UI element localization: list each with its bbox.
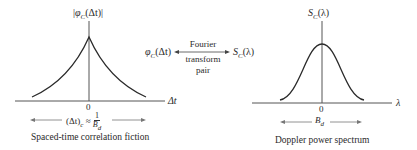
delta-t-c: (Δt) [66,116,80,126]
abs-close: | [101,7,103,18]
right-origin-tick: 0 [319,105,324,114]
right-width-annotation: Bd [315,116,324,128]
left-caption: Spaced-time correlation fiction [31,133,149,143]
right-caption: Doppler power spectrum [275,136,369,146]
left-y-axis-label: |φC(Δt)| [73,8,103,21]
approx-sign: ≈ [86,116,91,126]
fraction: 1 Bd [93,112,101,132]
argument: (λ) [318,7,330,18]
left-width-annotation: (Δt)c ≈ 1 Bd [66,112,101,132]
denominator-sub: d [98,124,102,132]
left-origin-tick: 0 [86,103,91,112]
pair-label: pair [182,66,224,75]
fourier-label: Fourier [182,40,224,49]
subscript: d [321,120,325,128]
arg-delta-t: (Δt) [85,7,101,18]
right-y-axis-label: SC(λ) [308,8,329,21]
left-x-axis-label: Δt [168,96,177,106]
right-x-axis-label: λ [396,98,400,108]
center-left-term: φC(Δt) [145,47,171,60]
center-right-term: SC(λ) [233,47,254,60]
argument: (Δt) [155,46,171,57]
argument: (λ) [243,46,255,57]
diagram-canvas [0,0,417,150]
subscript: c [80,121,83,129]
transform-label: transform [180,55,226,64]
